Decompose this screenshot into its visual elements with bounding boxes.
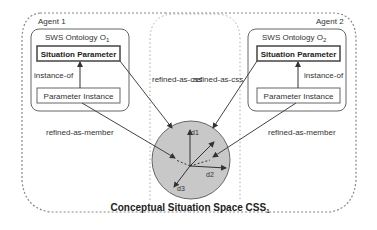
css-title: Conceptual Situation Space CSS1 <box>111 202 271 214</box>
diagram-canvas: Agent 1 Agent 2 SWS Ontology O1 Situatio… <box>0 0 377 230</box>
axis-d3-label: d3 <box>177 185 185 192</box>
refined-as-css-arrow-right <box>213 61 257 128</box>
parameter-instance-1-label: Parameter Instance <box>44 92 114 101</box>
instance-of-2-label: instance-of <box>304 71 344 80</box>
axis-d1-label: d1 <box>191 129 199 136</box>
ontology-1-title: SWS Ontology O1 <box>45 33 110 43</box>
refined-as-css-arrow-left <box>120 61 172 128</box>
agent-1-label: Agent 1 <box>38 17 66 26</box>
parameter-instance-2-label: Parameter Instance <box>264 92 334 101</box>
refined-as-member-left-label: refined-as-member <box>46 128 114 137</box>
refined-as-css-right-label: refined-as-css <box>193 75 243 84</box>
axis-d2-label: d2 <box>206 171 214 178</box>
agent-2-label: Agent 2 <box>316 17 344 26</box>
ontology-2-title: SWS Ontology O2 <box>262 33 327 43</box>
situation-parameter-2-label: Situation Parameter <box>261 50 337 59</box>
situation-parameter-1-label: Situation Parameter <box>41 50 117 59</box>
instance-of-1-label: instance-of <box>34 71 74 80</box>
refined-as-member-right-label: refined-as-member <box>268 128 336 137</box>
